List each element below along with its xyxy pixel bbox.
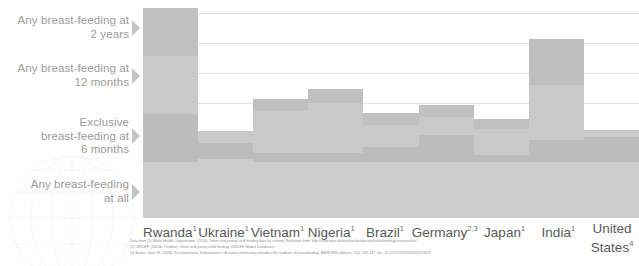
bar-segment	[143, 56, 198, 114]
chevron-right-icon	[132, 20, 141, 36]
bar-segment	[474, 162, 529, 218]
category-label-line: United	[585, 221, 639, 236]
axis-label-any-2-years: Any breast-feeding at2 years	[18, 14, 129, 41]
bar-segment	[363, 113, 418, 125]
footnote-block: Data from (1) World Health Organization.…	[130, 238, 630, 257]
axis-label-any-12-months: Any breast-feeding at12 months	[18, 62, 129, 89]
bar-segment	[308, 162, 363, 218]
bar-column[interactable]	[529, 0, 584, 218]
axis-label-line: Any breast-feeding	[31, 178, 129, 192]
bar-segment	[529, 140, 584, 162]
chevron-right-icon	[132, 128, 141, 144]
bar-column[interactable]	[363, 0, 418, 218]
bar-segment	[529, 85, 584, 140]
bar-segment	[419, 117, 474, 135]
bar-segment	[363, 147, 418, 162]
bar-group	[143, 0, 639, 218]
chevron-right-icon	[132, 68, 141, 84]
footnote-line: (3) Banks, Jane W. (2003). Ka'nistenhser…	[130, 250, 630, 256]
bar-segment	[419, 135, 474, 162]
axis-label-group: Any breast-feeding at2 yearsAny breast-f…	[0, 0, 143, 218]
bar-column[interactable]	[308, 0, 363, 218]
bar-segment	[308, 89, 363, 103]
axis-label-exclusive-6-months: Exclusivebreast-feeding at6 months	[41, 116, 129, 157]
bar-column[interactable]	[474, 0, 529, 218]
bar-segment	[474, 129, 529, 155]
bar-segment	[584, 137, 639, 162]
bar-segment	[474, 155, 529, 162]
footnote-marker: 2,3	[467, 224, 477, 233]
bar-segment	[419, 105, 474, 117]
axis-label-line: 12 months	[18, 76, 129, 90]
bar-column[interactable]	[198, 0, 253, 218]
axis-label-line: Any breast-feeding at	[18, 14, 129, 28]
bar-segment	[584, 162, 639, 218]
bar-segment	[419, 162, 474, 218]
bar-column[interactable]	[253, 0, 308, 218]
footnote-marker: 1	[350, 224, 354, 233]
footnote-marker: 1	[400, 224, 404, 233]
footnote-marker: 1	[245, 224, 249, 233]
bar-segment	[198, 143, 253, 159]
bar-segment	[529, 162, 584, 218]
bar-segment	[584, 130, 639, 137]
bar-segment	[143, 8, 198, 56]
bar-segment	[143, 162, 198, 218]
axis-label-line: Exclusive	[41, 116, 129, 130]
axis-label-line: Any breast-feeding at	[18, 62, 129, 76]
bar-segment	[474, 119, 529, 129]
bar-segment	[363, 125, 418, 147]
axis-label-line: breast-feeding at	[41, 130, 129, 144]
chart-plot-area	[143, 0, 639, 218]
chevron-right-icon	[132, 184, 141, 200]
bar-segment	[529, 39, 584, 85]
bar-segment	[308, 103, 363, 153]
axis-label-line: 6 months	[41, 143, 129, 157]
bar-segment	[253, 162, 308, 218]
axis-label-any-at-all: Any breast-feedingat all	[31, 178, 129, 205]
bar-segment	[143, 114, 198, 162]
bar-segment	[198, 131, 253, 143]
axis-label-line: 2 years	[18, 28, 129, 42]
bar-segment	[253, 99, 308, 111]
bar-segment	[253, 111, 308, 153]
bar-segment	[308, 153, 363, 162]
bar-column[interactable]	[143, 0, 198, 218]
footnote-marker: 1	[571, 224, 575, 233]
footnote-marker: 1	[521, 224, 525, 233]
axis-label-line: at all	[31, 192, 129, 206]
bar-column[interactable]	[584, 0, 639, 218]
bar-segment	[363, 162, 418, 218]
bar-column[interactable]	[419, 0, 474, 218]
bar-segment	[253, 153, 308, 162]
bar-segment	[198, 159, 253, 218]
